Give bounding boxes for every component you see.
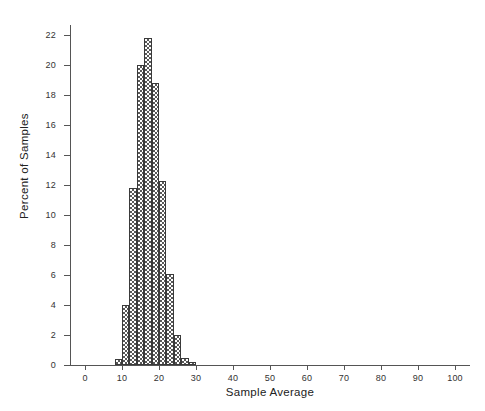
histogram-bar xyxy=(144,38,151,365)
histogram-bar xyxy=(152,83,159,365)
histogram-bar xyxy=(174,335,181,365)
histogram-chart: 0246810121416182022 01020304050607080901… xyxy=(0,0,485,411)
histogram-bar xyxy=(189,362,196,365)
histogram-bar xyxy=(137,65,144,365)
histogram-bar xyxy=(181,358,188,366)
y-axis-title: Percent of Samples xyxy=(18,86,30,246)
histogram-bar xyxy=(115,359,122,365)
histogram-bar xyxy=(159,181,166,366)
histogram-bar xyxy=(166,274,173,366)
histogram-bar xyxy=(122,305,129,365)
histogram-bar xyxy=(129,188,136,365)
x-axis-title: Sample Average xyxy=(160,386,380,398)
histogram-bars xyxy=(0,0,485,411)
plot-area: 0246810121416182022 01020304050607080901… xyxy=(0,0,485,411)
